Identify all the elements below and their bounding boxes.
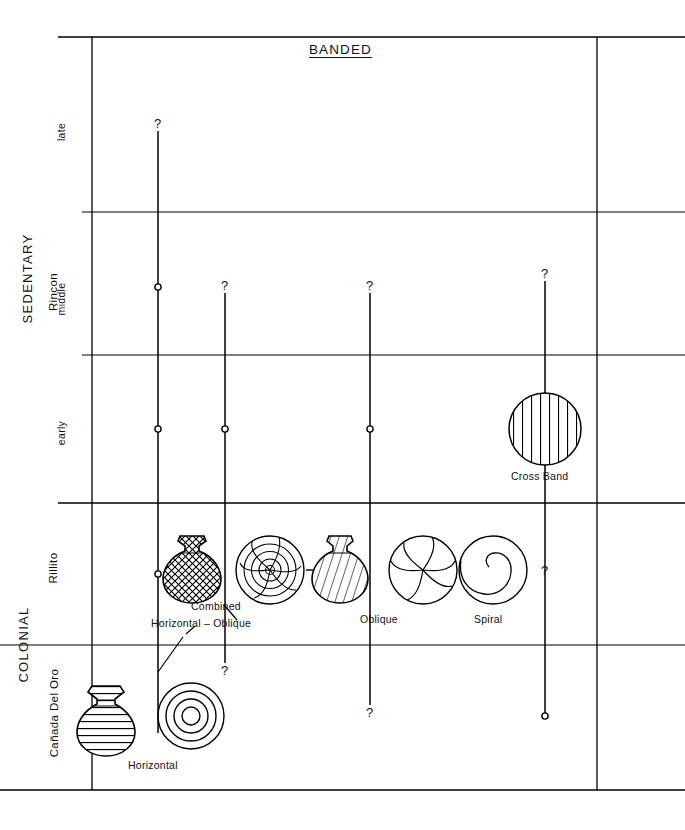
vessel-horizontal-bands-icon	[77, 686, 135, 756]
circle-single-spiral-icon	[459, 536, 527, 604]
occurrence-marker	[367, 426, 373, 432]
chart-canvas	[0, 0, 685, 830]
range-line-horizontal	[155, 131, 161, 733]
seriation-chart: BANDED SEDENTARY COLONIAL Rincon Rillito…	[0, 0, 685, 830]
motif-glyph-oblique	[312, 536, 457, 604]
motif-glyph-spiral	[459, 536, 527, 604]
axis-label-canada-del-oro: Cañada Del Oro	[48, 651, 60, 776]
uncertainty-marker-combined-top: ?	[221, 278, 228, 293]
motif-label-cross-band: Cross Band	[511, 470, 568, 482]
motif-label-combined-line2: Horizontal – Oblique	[151, 617, 251, 629]
chart-title: BANDED	[309, 42, 372, 57]
motif-label-oblique: Oblique	[360, 613, 398, 625]
occurrence-marker	[542, 713, 548, 719]
circle-concentric-rings-icon	[158, 683, 224, 749]
circle-pinwheel-icon	[389, 536, 457, 604]
motif-glyph-cross-band	[509, 393, 581, 465]
axis-label-early: early	[55, 409, 67, 457]
occurrence-marker	[155, 284, 161, 290]
vessel-crosshatch-icon	[163, 536, 221, 603]
motif-label-combined-line1: Combined	[191, 600, 241, 612]
axis-label-sedentary: SEDENTARY	[20, 224, 35, 334]
motif-glyph-horizontal	[77, 683, 224, 756]
motif-glyph-combined-horizontal-oblique	[158, 536, 330, 672]
occurrence-marker	[155, 426, 161, 432]
label-leader-diagonal	[158, 637, 183, 672]
uncertainty-marker-cross-band-rillito: ?	[541, 563, 548, 578]
uncertainty-marker-cross-band-top: ?	[541, 266, 548, 281]
range-line-cross-band	[542, 281, 548, 719]
circle-concentric-spiral-icon	[236, 536, 304, 604]
uncertainty-marker-oblique-top: ?	[366, 278, 373, 293]
axis-label-rillito: Rillito	[47, 536, 59, 600]
axis-label-middle: middle	[55, 273, 67, 325]
uncertainty-marker-horizontal-top: ?	[154, 116, 161, 131]
uncertainty-marker-combined-bottom: ?	[221, 663, 228, 678]
occurrence-marker	[222, 426, 228, 432]
circle-vertical-bands-icon	[509, 393, 581, 465]
motif-label-spiral: Spiral	[474, 613, 502, 625]
axis-label-late: late	[55, 110, 67, 154]
vessel-oblique-stripes-icon	[312, 536, 368, 603]
axis-label-colonial: COLONIAL	[16, 592, 31, 697]
chart-grid	[0, 37, 685, 790]
occurrence-marker	[155, 571, 161, 577]
uncertainty-marker-oblique-bottom: ?	[366, 705, 373, 720]
motif-label-horizontal: Horizontal	[128, 759, 178, 771]
